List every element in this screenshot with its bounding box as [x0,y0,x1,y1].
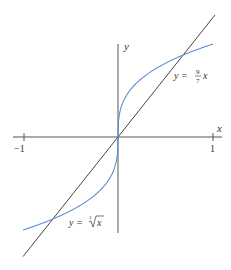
line-9-7x [23,15,215,257]
line-label-var: x [202,70,208,81]
function-graph: x y −1 1 y = 9 7 x y = 3 x [0,0,231,270]
x-axis-label: x [216,122,222,134]
curve-label-prefix: y = [68,217,83,228]
line-label-prefix: y = [173,70,188,81]
line-label: y = 9 7 x [173,68,208,85]
tick-label-neg1: −1 [14,143,25,154]
line-label-numerator: 9 [196,68,200,76]
curve-label-root-index: 3 [89,215,92,220]
line-label-denominator: 7 [196,77,200,85]
curve-label: y = 3 x [68,215,104,228]
tick-label-pos1: 1 [210,143,215,154]
y-axis-label: y [123,40,129,52]
curve-label-var: x [96,217,102,228]
